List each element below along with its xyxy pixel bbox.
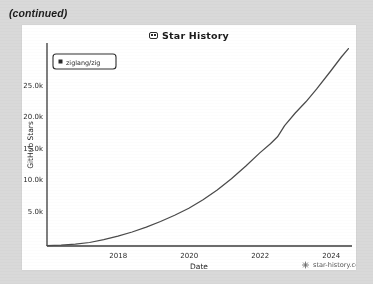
chart-plot-area: 25.0k 20.0k 15.0k 10.0k 5.0k GitHub Star… [22,25,356,270]
starburst-icon [302,262,309,269]
y-tick-label: 5.0k [28,208,44,216]
series-line-ziglang-zig [47,49,348,246]
y-tick-label: 25.0k [23,82,44,90]
chart-legend: ziglang/zig [53,54,116,69]
legend-label: ziglang/zig [66,59,100,67]
y-tick-label: 10.0k [23,176,44,184]
x-axis-title: Date [190,262,208,270]
x-tick-label: 2020 [180,252,198,260]
legend-marker [59,60,63,64]
x-tick-label: 2022 [251,252,269,260]
watermark-label: star-history.com [313,261,356,269]
watermark: star-history.com [302,261,356,269]
star-history-chart-card: Star History 25.0k 20.0k 15.0k 10.0k 5.0… [22,25,356,270]
x-tick-label: 2024 [322,252,340,260]
continued-label: (continued) [9,7,67,19]
y-tick-label: 20.0k [23,113,44,121]
x-tick-label: 2018 [109,252,127,260]
y-axis-title: GitHub Stars [26,121,35,169]
